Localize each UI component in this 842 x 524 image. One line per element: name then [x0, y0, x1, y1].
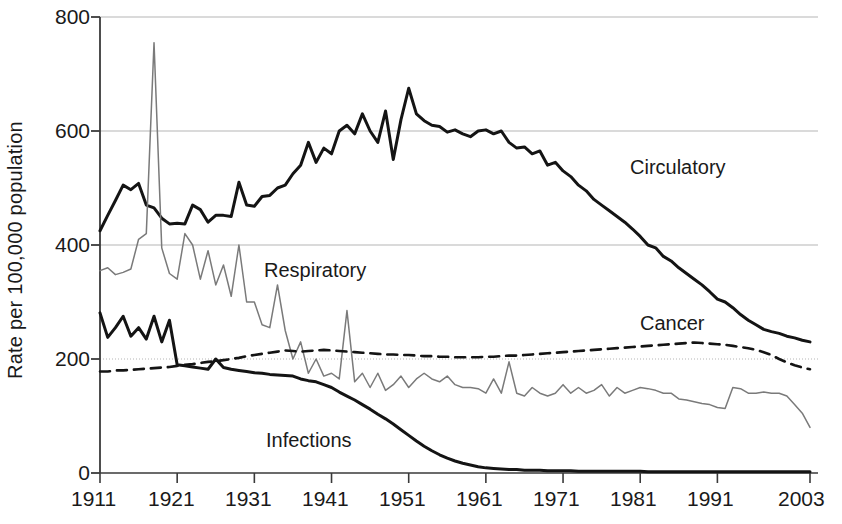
series-line-circulatory — [100, 88, 810, 342]
axes — [91, 17, 818, 483]
series-paths — [100, 43, 810, 472]
chart-figure: Rate per 100,000 population 800 600 400 … — [0, 0, 842, 524]
series-line-cancer — [100, 342, 810, 371]
series-line-infections — [100, 313, 810, 472]
gridlines — [100, 17, 818, 359]
chart-plot-area — [0, 0, 842, 524]
